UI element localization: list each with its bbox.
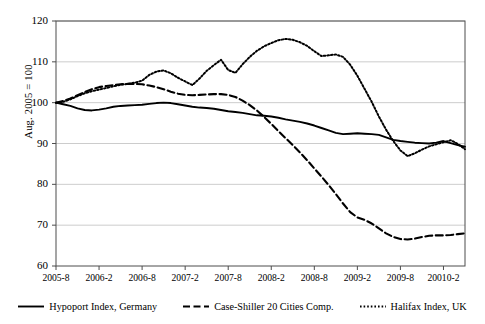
legend-label: Hypoport Index, Germany	[49, 301, 157, 312]
gridlines	[56, 21, 465, 225]
y-axis-ticks	[52, 21, 56, 266]
y-tick-label: 80	[14, 178, 48, 189]
data-series-layer	[56, 39, 465, 239]
line-chart-figure: Aug. 2005 = 100 60708090100110120 2005-8…	[0, 0, 485, 324]
legend-item-2[interactable]: Case-Shiller 20 Cities Comp.	[183, 301, 333, 312]
legend-item-3[interactable]: Halifax Index, UK	[360, 301, 467, 312]
legend-swatch-solid	[18, 302, 44, 311]
legend-item-1[interactable]: Hypoport Index, Germany	[18, 301, 157, 312]
legend-label: Halifax Index, UK	[391, 301, 467, 312]
y-tick-label: 100	[14, 97, 48, 108]
y-tick-label: 70	[14, 219, 48, 230]
legend-swatch-dashed	[183, 302, 209, 311]
y-tick-label: 60	[14, 260, 48, 271]
y-tick-label: 120	[14, 15, 48, 26]
series-line-1	[56, 103, 465, 147]
legend-swatch-dotted	[360, 302, 386, 311]
y-tick-label: 110	[14, 56, 48, 67]
x-tick-label: 20010-2	[413, 273, 473, 283]
legend-label: Case-Shiller 20 Cities Comp.	[214, 301, 333, 312]
x-axis-ticks	[56, 266, 443, 270]
chart-legend: Hypoport Index, GermanyCase-Shiller 20 C…	[0, 296, 485, 316]
series-line-3	[56, 39, 465, 156]
y-tick-label: 90	[14, 138, 48, 149]
